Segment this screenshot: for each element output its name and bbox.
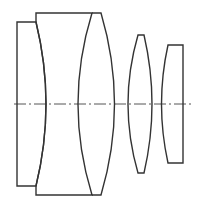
lens-diagram-svg (0, 0, 202, 211)
lens-diagram (0, 0, 202, 211)
